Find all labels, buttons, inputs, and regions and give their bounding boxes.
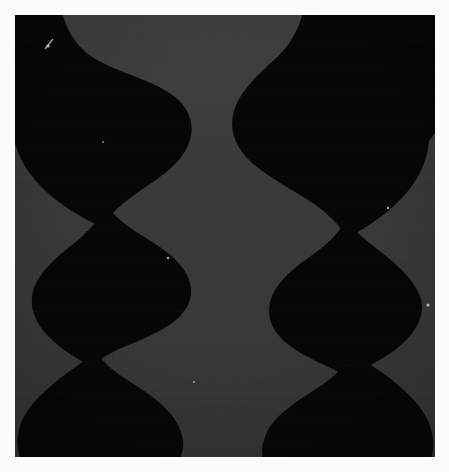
speck-mid-left	[102, 141, 104, 143]
speck-waist-left	[167, 257, 169, 259]
speck-lower-left	[193, 381, 195, 383]
speck-mid-right	[427, 304, 430, 307]
silhouette-canvas	[15, 15, 435, 457]
photo-content-area	[15, 15, 435, 457]
image-root: Two vertical columns of stacked black or…	[0, 0, 449, 472]
speck-upper-right	[387, 207, 389, 209]
